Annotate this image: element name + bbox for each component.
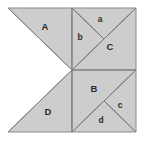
- edges-layer: [8, 8, 136, 132]
- piece-label-b: b: [77, 32, 82, 42]
- piece-label-C: C: [107, 41, 114, 52]
- tangram-diagram: ADabCBcd: [0, 0, 145, 144]
- piece-label-d: d: [98, 115, 103, 125]
- tangram-figure-root: ADabCBcd: [0, 0, 145, 144]
- piece-label-c: c: [118, 100, 123, 110]
- piece-label-B: B: [91, 83, 98, 94]
- piece-label-a: a: [98, 14, 103, 24]
- piece-label-D: D: [45, 106, 52, 117]
- piece-label-A: A: [42, 21, 49, 32]
